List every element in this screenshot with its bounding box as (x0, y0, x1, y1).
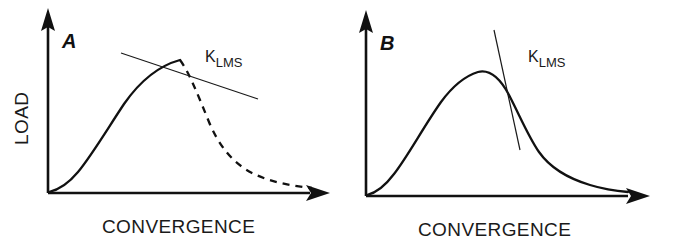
k-lms-main-b: K (528, 48, 539, 65)
x-axis-title-a: CONVERGENCE (102, 216, 255, 237)
x-axis-a (48, 185, 330, 201)
k-lms-main-a: K (205, 48, 216, 65)
panel-letter-a: A (61, 30, 76, 52)
panel-letter-b: B (380, 32, 394, 54)
k-lms-sub-b: LMS (539, 55, 566, 70)
k-lms-label-b: KLMS (528, 48, 566, 70)
pre-peak-curve-a (49, 60, 180, 192)
load-convergence-curve-b (367, 71, 628, 195)
panel-b: KLMS B CONVERGENCE (338, 0, 676, 247)
y-axis-b (359, 10, 373, 196)
k-lms-label-a: KLMS (205, 48, 243, 70)
figure-root: KLMS A LOAD CONVERGENCE (0, 0, 676, 247)
y-axis-a (41, 8, 55, 193)
x-axis-arrow-icon-b (626, 188, 650, 204)
x-axis-title-b: CONVERGENCE (418, 219, 571, 240)
k-lms-tangent-line-b (494, 30, 520, 150)
panel-a: KLMS A LOAD CONVERGENCE (0, 0, 338, 247)
y-axis-title-a: LOAD (11, 92, 32, 145)
k-lms-sub-a: LMS (216, 55, 243, 70)
